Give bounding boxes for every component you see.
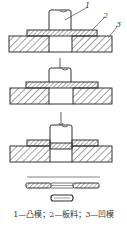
figure-caption: 1—凸模；2—板料；3—凹模 <box>0 208 127 219</box>
label-3: 3 <box>116 20 121 29</box>
die-left <box>10 146 50 162</box>
label-2: 2 <box>103 11 108 20</box>
blanking-diagram <box>0 0 127 226</box>
sheet-right <box>72 140 98 146</box>
stage-2 <box>10 58 112 104</box>
die-left <box>9 36 49 52</box>
slug <box>50 143 72 149</box>
sheet <box>27 30 97 36</box>
sheet <box>26 82 98 88</box>
die-left <box>10 88 49 104</box>
punch <box>49 68 71 82</box>
scrap-left <box>26 183 51 188</box>
sheet-left <box>27 140 50 146</box>
punch <box>49 10 71 30</box>
die-right <box>72 36 112 52</box>
stage-4 <box>26 177 100 201</box>
punch <box>50 125 72 143</box>
stage-1 <box>9 8 117 52</box>
stage-3 <box>10 112 112 162</box>
die-right <box>72 146 112 162</box>
scrap-right <box>73 183 99 188</box>
die-right <box>73 88 112 104</box>
label-1: 1 <box>85 1 90 10</box>
